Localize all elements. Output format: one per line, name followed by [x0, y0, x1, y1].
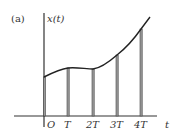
tick-label-2T: 2T — [85, 119, 100, 130]
sample-bar-0 — [44, 77, 46, 116]
signal-curve — [44, 17, 150, 77]
sample-bar-4T — [140, 29, 142, 116]
sampling-diagram: (a) x(t) O T 2T 3T 4T t — [0, 0, 174, 133]
panel-label: (a) — [11, 13, 25, 24]
y-axis-label: x(t) — [47, 13, 65, 24]
origin-label: O — [47, 119, 55, 130]
sample-bar-2T — [92, 69, 94, 116]
tick-label-T: T — [64, 119, 72, 130]
tick-label-4T: 4T — [133, 119, 148, 130]
x-axis-label: t — [165, 119, 170, 130]
sample-bar-3T — [116, 55, 118, 116]
sample-bar-T — [67, 68, 69, 116]
tick-label-3T: 3T — [110, 119, 124, 130]
